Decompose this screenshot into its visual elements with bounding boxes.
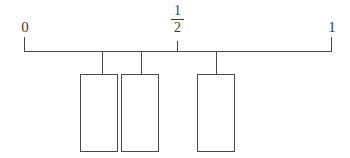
tick-mark-one [331, 37, 332, 52]
drop-line-1 [102, 52, 103, 74]
number-line-axis [24, 51, 332, 52]
number-line-diagram: 0 1 2 1 [0, 0, 350, 158]
hanging-box-3 [197, 74, 235, 152]
drop-line-2 [141, 52, 142, 74]
tick-mark-zero [24, 37, 25, 52]
fraction-numerator: 1 [174, 4, 181, 18]
fraction-denominator: 2 [174, 21, 181, 35]
axis-label-one: 1 [320, 20, 344, 35]
drop-line-3 [216, 52, 217, 74]
axis-label-zero: 0 [13, 20, 37, 35]
hanging-box-1 [80, 74, 118, 152]
hanging-box-2 [121, 74, 159, 152]
axis-label-one-half: 1 2 [162, 4, 193, 35]
